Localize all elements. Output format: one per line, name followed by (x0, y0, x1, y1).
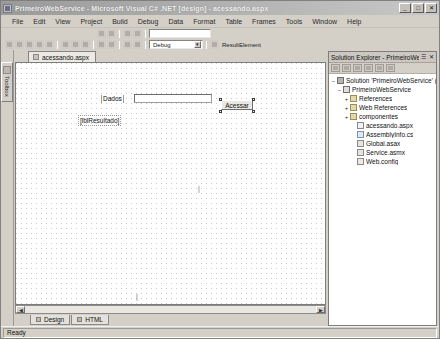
add-new-item-icon[interactable] (15, 40, 24, 49)
copy-web-icon[interactable] (386, 64, 395, 72)
open-file-icon[interactable] (25, 40, 34, 49)
expander-icon[interactable]: − (330, 78, 337, 84)
navigate-forward-icon[interactable] (133, 40, 142, 49)
designer-label-dados[interactable]: Dados (101, 95, 124, 103)
document-tab-acessando-aspx[interactable]: acessando.aspx (28, 51, 96, 62)
new-project-icon[interactable] (5, 40, 14, 49)
designer-horizontal-scrollbar[interactable]: ◀ ▶ (15, 305, 326, 314)
refresh-icon[interactable] (331, 64, 340, 72)
expander-icon[interactable]: + (343, 114, 350, 120)
tree-item-label: Service.asmx (366, 149, 405, 156)
tree-item-web-config[interactable]: Web.config (329, 157, 436, 166)
scrollbar-track[interactable] (25, 306, 316, 313)
menu-item-project[interactable]: Project (75, 18, 107, 25)
web-form-icon (357, 122, 364, 129)
close-button[interactable]: ✕ (425, 3, 437, 13)
menu-item-frames[interactable]: Frames (247, 18, 281, 25)
toolbar-separator (57, 41, 58, 49)
save-icon[interactable] (35, 40, 44, 49)
selection-grip[interactable] (219, 98, 222, 101)
tree-item-solution[interactable]: − Solution 'PrimeiroWebService' (1 proje… (329, 76, 436, 85)
minimize-button[interactable]: _ (399, 3, 411, 13)
tree-item-references[interactable]: + References (329, 94, 436, 103)
chevron-down-icon[interactable]: ▾ (194, 41, 201, 48)
tab-design-view[interactable]: Design (30, 315, 70, 325)
menu-item-data[interactable]: Data (163, 18, 188, 25)
tree-item-web-references[interactable]: + Web References (329, 103, 436, 112)
scroll-right-icon[interactable]: ▶ (316, 306, 325, 313)
menu-item-table[interactable]: Table (220, 18, 247, 25)
menu-item-build[interactable]: Build (107, 18, 133, 25)
menu-item-help[interactable]: Help (342, 18, 366, 25)
solution-explorer-tree[interactable]: − Solution 'PrimeiroWebService' (1 proje… (329, 74, 436, 325)
scroll-left-icon[interactable]: ◀ (16, 306, 25, 313)
design-view-icon (36, 317, 41, 322)
undo-icon[interactable] (97, 40, 106, 49)
insert-image-icon[interactable] (133, 29, 142, 38)
web-forms-design-canvas[interactable]: Dados Acessar [lblResultado] | | (16, 63, 325, 304)
copy-icon[interactable] (71, 40, 80, 49)
toolbar-separator (145, 41, 146, 49)
toolbar-area: Debug ▾ ResultElement (1, 28, 439, 50)
menu-bar: File Edit View Project Build Debug Data … (1, 15, 439, 28)
tree-item-assemblyinfo-cs[interactable]: AssemblyInfo.cs (329, 130, 436, 139)
menu-item-window[interactable]: Window (307, 18, 342, 25)
menu-item-format[interactable]: Format (188, 18, 220, 25)
selection-grip[interactable] (219, 110, 222, 113)
visual-studio-window: PrimeiroWebService - Microsoft Visual C#… (0, 0, 440, 339)
auto-hide-pin-icon[interactable]: ☰ (421, 54, 426, 61)
web-form-icon (33, 54, 39, 60)
save-all-icon[interactable] (45, 40, 54, 49)
tree-item-label: References (359, 95, 392, 102)
copy-icon[interactable] (107, 29, 116, 38)
menu-item-edit[interactable]: Edit (28, 18, 50, 25)
maximize-button[interactable]: □ (412, 3, 424, 13)
tree-item-componentes[interactable]: + componentes (329, 112, 436, 121)
designer-label-resultado[interactable]: [lblResultado] (78, 115, 121, 126)
view-designer-icon[interactable] (375, 64, 384, 72)
global-asax-icon (357, 140, 364, 147)
solution-configuration-combo[interactable]: Debug ▾ (149, 40, 203, 49)
menu-item-file[interactable]: File (7, 18, 28, 25)
toolbox-tab[interactable]: Toolbox (1, 62, 13, 102)
expander-icon[interactable]: + (343, 105, 350, 111)
style-field[interactable] (149, 29, 211, 38)
tree-item-service-asmx[interactable]: Service.asmx (329, 148, 436, 157)
selection-grip[interactable] (252, 110, 255, 113)
navigate-back-icon[interactable] (123, 40, 132, 49)
menu-item-view[interactable]: View (50, 18, 75, 25)
csharp-file-icon (357, 131, 364, 138)
cut-icon[interactable] (61, 40, 70, 49)
status-message: Ready (3, 328, 437, 338)
designer-textbox[interactable] (134, 94, 212, 103)
selection-grip[interactable] (252, 98, 255, 101)
toolbar-separator (93, 41, 94, 49)
solution-explorer-title-bar: Solution Explorer - PrimeiroWebService ☰… (329, 52, 436, 63)
solution-explorer-toolbar (329, 63, 436, 74)
redo-icon[interactable] (107, 40, 116, 49)
tree-item-label: componentes (359, 113, 398, 120)
toolbar-separator (119, 30, 120, 38)
tree-item-project[interactable]: − PrimeiroWebService (329, 85, 436, 94)
designer-button-acessar[interactable]: Acessar (221, 100, 253, 110)
view-code-icon[interactable] (364, 64, 373, 72)
menu-item-tools[interactable]: Tools (281, 18, 307, 25)
menu-item-debug[interactable]: Debug (133, 18, 164, 25)
tab-html-view[interactable]: HTML (71, 315, 109, 325)
tree-item-acessando-aspx[interactable]: acessando.aspx (329, 121, 436, 130)
properties-icon[interactable] (353, 64, 362, 72)
tree-item-global-asax[interactable]: Global.asax (329, 139, 436, 148)
expander-icon[interactable]: + (343, 96, 350, 102)
tab-design-label: Design (44, 316, 64, 323)
expander-icon[interactable]: − (336, 87, 343, 93)
align-icon[interactable] (97, 29, 106, 38)
tree-item-label: acessando.aspx (366, 122, 413, 129)
insert-table-icon[interactable] (123, 29, 132, 38)
toolbar-separator (145, 30, 146, 38)
text-caret: | (136, 293, 138, 300)
find-target-icon[interactable] (210, 40, 219, 49)
paste-icon[interactable] (81, 40, 90, 49)
show-all-files-icon[interactable] (342, 64, 351, 72)
close-panel-icon[interactable]: ✕ (429, 54, 434, 61)
status-bar: Ready (1, 326, 439, 338)
